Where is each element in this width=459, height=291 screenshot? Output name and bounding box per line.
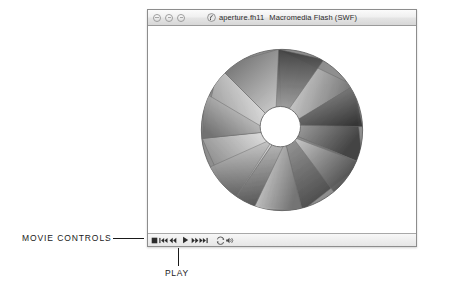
flash-document-icon xyxy=(207,13,216,22)
window-titlebar[interactable]: aperture.fh11Macromedia Flash (SWF) xyxy=(148,10,416,26)
zoom-button[interactable] xyxy=(177,14,185,22)
step-back-button[interactable] xyxy=(168,235,177,246)
skip-to-start-icon xyxy=(159,237,168,244)
mute-button[interactable] xyxy=(225,235,234,246)
window-title-group: aperture.fh11Macromedia Flash (SWF) xyxy=(148,13,416,22)
minimize-button[interactable] xyxy=(165,14,173,22)
annotation-play: PLAY xyxy=(165,268,189,278)
annotation-movie-controls: MOVIE CONTROLS xyxy=(22,233,112,243)
loop-button[interactable] xyxy=(216,235,225,246)
sound-icon xyxy=(225,236,234,245)
window-title-app: Macromedia Flash (SWF) xyxy=(269,13,357,22)
rewind-button[interactable] xyxy=(159,235,168,246)
window-controls-group xyxy=(153,14,185,22)
step-forward-button[interactable] xyxy=(190,235,199,246)
stop-button[interactable] xyxy=(150,235,159,246)
flash-player-window: aperture.fh11Macromedia Flash (SWF) xyxy=(147,9,417,247)
screenshot-stage: aperture.fh11Macromedia Flash (SWF) xyxy=(0,0,459,291)
window-title-file: aperture.fh11 xyxy=(219,13,264,22)
loop-icon xyxy=(216,236,225,245)
window-title-text: aperture.fh11Macromedia Flash (SWF) xyxy=(219,13,357,22)
annotation-play-leader-line xyxy=(178,248,179,266)
play-icon xyxy=(182,236,189,244)
step-back-icon xyxy=(169,237,177,244)
aperture-opening xyxy=(260,106,300,146)
aperture-iris-diagram xyxy=(198,46,366,214)
play-button[interactable] xyxy=(181,235,190,246)
stop-icon xyxy=(151,237,158,244)
movie-controls-bar[interactable] xyxy=(148,233,416,246)
movie-canvas xyxy=(148,26,416,233)
step-forward-icon xyxy=(191,237,199,244)
skip-to-end-icon xyxy=(199,237,208,244)
annotation-movie-controls-leader-line xyxy=(113,238,144,239)
fast-forward-button[interactable] xyxy=(199,235,208,246)
close-button[interactable] xyxy=(153,14,161,22)
